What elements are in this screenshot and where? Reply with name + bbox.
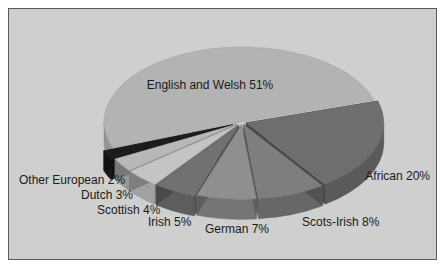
pie-slices (104, 47, 384, 219)
label-other-european: Other European 2% (19, 173, 125, 187)
label-african: African 20% (365, 169, 430, 183)
label-scottish: Scottish 4% (97, 203, 161, 217)
label-scots-irish: Scots-Irish 8% (302, 215, 380, 229)
label-dutch: Dutch 3% (81, 188, 133, 202)
label-english-welsh: English and Welsh 51% (147, 78, 274, 92)
label-irish: Irish 5% (148, 215, 192, 229)
label-german: German 7% (205, 222, 269, 236)
pie-chart: English and Welsh 51% African 20% Scots-… (0, 0, 447, 274)
